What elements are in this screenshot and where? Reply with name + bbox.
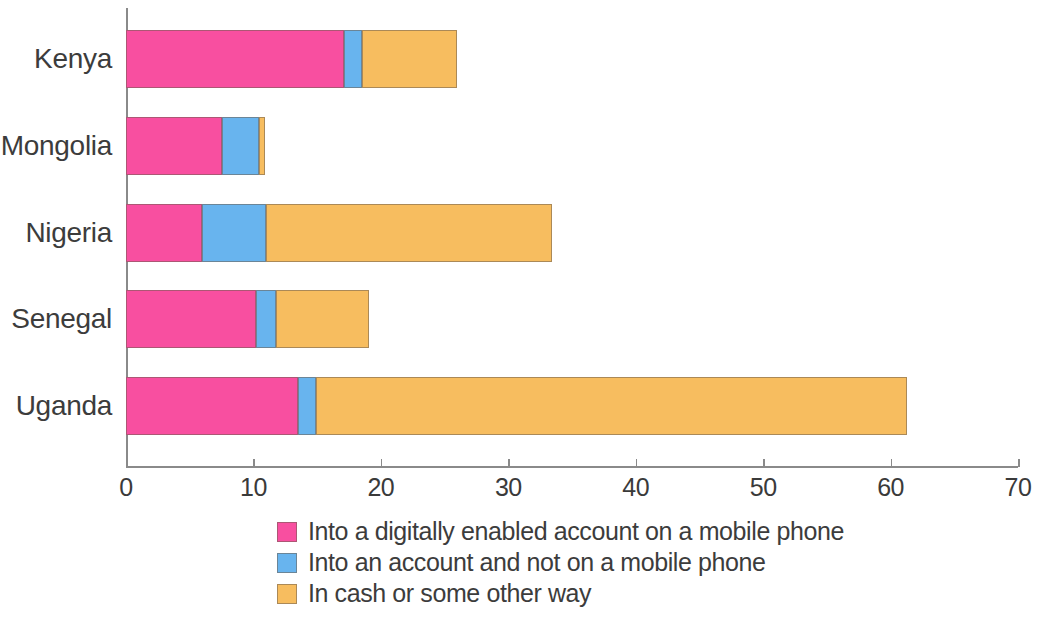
bar-row: Mongolia bbox=[0, 117, 1045, 175]
bar-segment bbox=[298, 377, 316, 435]
stacked-bar-chart: 010203040506070 KenyaMongoliaNigeriaSene… bbox=[0, 0, 1045, 617]
bar-row: Uganda bbox=[0, 377, 1045, 435]
x-tick-label: 70 bbox=[1005, 473, 1032, 502]
bar-segment bbox=[266, 204, 551, 262]
legend-label: Into a digitally enabled account on a mo… bbox=[308, 517, 844, 546]
bar-row: Kenya bbox=[0, 30, 1045, 88]
bar-segment bbox=[276, 290, 369, 348]
bar-segment bbox=[222, 117, 259, 175]
x-tick-mark bbox=[381, 459, 383, 467]
x-tick-mark bbox=[253, 459, 255, 467]
x-tick-label: 30 bbox=[495, 473, 522, 502]
bar-segment bbox=[344, 30, 362, 88]
bar-stack bbox=[126, 290, 369, 348]
bar-segment bbox=[259, 117, 265, 175]
legend-item[interactable]: In cash or some other way bbox=[277, 578, 997, 609]
x-tick-mark bbox=[508, 459, 510, 467]
bar-row: Nigeria bbox=[0, 204, 1045, 262]
bar-segment bbox=[362, 30, 458, 88]
x-tick-label: 60 bbox=[877, 473, 904, 502]
legend-label: In cash or some other way bbox=[308, 579, 591, 608]
x-tick-mark bbox=[1018, 459, 1020, 467]
category-label: Nigeria bbox=[25, 204, 112, 262]
bar-segment bbox=[256, 290, 276, 348]
category-label: Senegal bbox=[11, 290, 112, 348]
x-tick-mark bbox=[763, 459, 765, 467]
category-label: Kenya bbox=[34, 30, 112, 88]
legend-swatch-icon bbox=[277, 522, 297, 542]
legend-swatch-icon bbox=[277, 553, 297, 573]
bar-stack bbox=[126, 30, 457, 88]
category-label: Mongolia bbox=[1, 117, 112, 175]
legend-item[interactable]: Into a digitally enabled account on a mo… bbox=[277, 516, 997, 547]
bar-segment bbox=[126, 204, 202, 262]
legend-label: Into an account and not on a mobile phon… bbox=[308, 548, 766, 577]
x-tick-label: 20 bbox=[367, 473, 394, 502]
legend-swatch-icon bbox=[277, 584, 297, 604]
x-tick-label: 50 bbox=[750, 473, 777, 502]
x-tick-mark bbox=[636, 459, 638, 467]
x-tick-label: 0 bbox=[119, 473, 132, 502]
bar-segment bbox=[126, 290, 256, 348]
bar-stack bbox=[126, 377, 907, 435]
bar-stack bbox=[126, 204, 552, 262]
bar-segment bbox=[126, 30, 344, 88]
category-label: Uganda bbox=[16, 377, 112, 435]
bar-segment bbox=[126, 377, 298, 435]
x-tick-mark bbox=[126, 459, 128, 467]
bar-segment bbox=[202, 204, 266, 262]
bar-segment bbox=[126, 117, 222, 175]
plot-area: 010203040506070 KenyaMongoliaNigeriaSene… bbox=[0, 0, 1045, 470]
legend-item[interactable]: Into an account and not on a mobile phon… bbox=[277, 547, 997, 578]
x-tick-label: 40 bbox=[622, 473, 649, 502]
x-axis-line bbox=[126, 466, 1018, 468]
x-tick-label: 10 bbox=[240, 473, 267, 502]
bar-stack bbox=[126, 117, 265, 175]
bar-row: Senegal bbox=[0, 290, 1045, 348]
bar-segment bbox=[316, 377, 907, 435]
chart-legend: Into a digitally enabled account on a mo… bbox=[277, 516, 997, 609]
x-tick-mark bbox=[891, 459, 893, 467]
